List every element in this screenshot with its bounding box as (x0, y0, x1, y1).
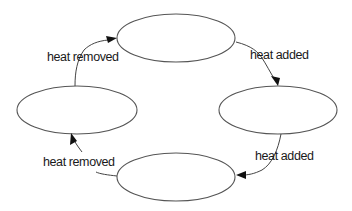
edge-bottom-to-left: heat removed (43, 133, 117, 176)
edge-left-to-top: heat removed (47, 36, 119, 86)
cycle-diagram: heat added heat added heat removed heat … (0, 0, 352, 211)
arrowhead-icon (236, 171, 246, 179)
edge-label-top-right: heat added (250, 48, 309, 62)
edge-right-to-bottom: heat added (236, 134, 314, 179)
edge-label-right-bottom: heat added (255, 149, 314, 163)
node-left (17, 86, 137, 134)
edge-top-to-right: heat added (236, 42, 309, 86)
node-top (117, 14, 235, 62)
arrowhead-icon (106, 36, 117, 43)
edge-label-bottom-left: heat removed (43, 155, 115, 169)
node-bottom (117, 153, 235, 201)
edge-label-left-top: heat removed (47, 50, 119, 64)
node-right (219, 86, 337, 134)
arrowhead-icon (271, 76, 280, 86)
